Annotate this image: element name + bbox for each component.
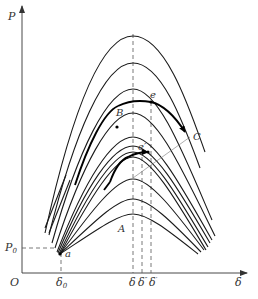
label-C: C	[193, 131, 201, 142]
label-a: a	[65, 248, 71, 259]
curve-2	[49, 63, 200, 235]
curve-9	[60, 179, 204, 254]
label-e: e	[150, 89, 156, 100]
p0-label: P0	[4, 241, 17, 255]
delta-tick-label: δ	[129, 276, 136, 289]
delta-double-prime-tick-label: δ″	[138, 276, 148, 289]
point-a	[58, 252, 61, 255]
origin-label: O	[10, 276, 19, 289]
delta-prime-tick-label: δ′	[149, 276, 158, 289]
trajectory-lower-tail	[104, 182, 110, 190]
curve-family	[45, 36, 215, 254]
point-e-prime	[146, 150, 149, 153]
label-e-prime: e′	[138, 141, 147, 152]
label-A: A	[117, 223, 125, 234]
label-B: B	[115, 107, 123, 118]
delta0-tick-label: δ0	[56, 276, 68, 290]
power-angle-diagram: P O δ P0 δ0 δ δ″ δ′ a A B C e e′	[0, 0, 258, 299]
point-B-dot	[115, 125, 118, 128]
x-axis-label: δ	[235, 276, 242, 289]
point-e	[149, 100, 152, 103]
y-axis-label: P	[7, 10, 16, 23]
trajectory-upper	[75, 106, 118, 185]
